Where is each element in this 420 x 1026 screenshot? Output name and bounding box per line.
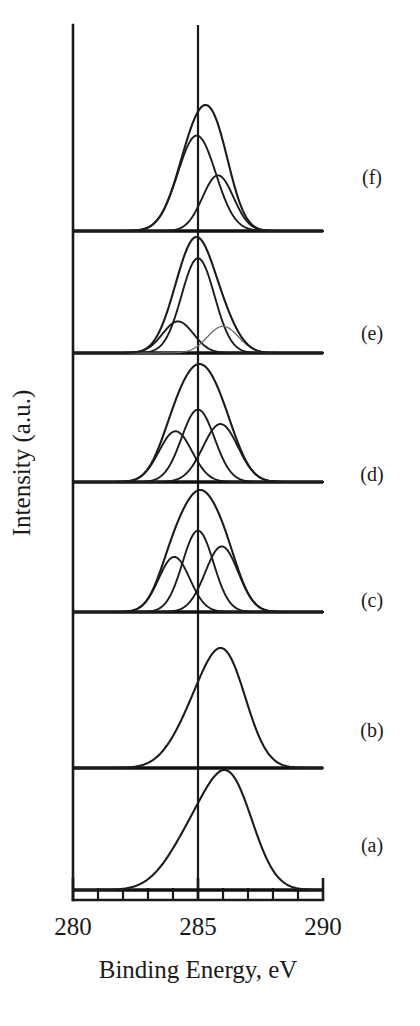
x-axis-title: Binding Energy, eV	[99, 956, 298, 983]
trace-label-e: (e)	[361, 322, 383, 345]
x-tick-label-280: 280	[54, 913, 92, 940]
trace-label-b: (b)	[360, 719, 383, 742]
spectra-plot: 280285290 (a)(b)(c)(d)(e)(f) Binding Ene…	[0, 0, 420, 1026]
trace-labels: (a)(b)(c)(d)(e)(f)	[360, 166, 383, 857]
x-tick-label-285: 285	[179, 913, 217, 940]
x-tick-label-290: 290	[304, 913, 342, 940]
x-tick-labels: 280285290	[54, 913, 342, 940]
trace-label-c: (c)	[361, 589, 383, 612]
trace-label-a: (a)	[361, 834, 383, 857]
xps-figure: 280285290 (a)(b)(c)(d)(e)(f) Binding Ene…	[0, 0, 420, 1026]
trace-label-d: (d)	[360, 463, 383, 486]
trace-label-f: (f)	[362, 166, 382, 189]
y-axis-title: Intensity (a.u.)	[8, 390, 36, 536]
